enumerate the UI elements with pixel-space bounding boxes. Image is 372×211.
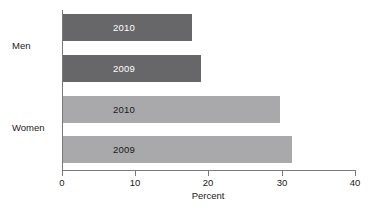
x-axis-tick-20 [208,171,209,176]
bar-women-2010: 2010 [63,96,280,123]
bar-label-women-2009: 2009 [113,144,135,156]
x-axis-tick-label-10: 10 [120,177,150,189]
bar-chart: 0 10 20 30 40 2010 2009 2010 2009 Men Wo… [0,0,372,211]
bar-women-2009: 2009 [63,136,292,163]
bar-men-2009: 2009 [63,55,201,82]
group-label-men: Men [12,40,30,52]
x-axis-tick-label-30: 30 [267,177,297,189]
x-axis-tick-40 [355,171,356,176]
x-axis-title: Percent [0,190,372,202]
x-axis-tick-30 [282,171,283,176]
x-axis-tick-label-0: 0 [47,177,77,189]
bar-label-men-2009: 2009 [113,63,135,75]
x-axis-tick-0 [62,171,63,176]
bar-label-men-2010: 2010 [113,22,135,34]
group-label-women: Women [12,122,45,134]
x-axis-tick-10 [135,171,136,176]
bar-men-2010: 2010 [63,14,192,41]
x-axis-title-text: Percent [192,190,225,201]
x-axis-tick-label-20: 20 [193,177,223,189]
bar-label-women-2010: 2010 [113,104,135,116]
x-axis-line [62,170,356,171]
x-axis-tick-label-40: 40 [340,177,370,189]
